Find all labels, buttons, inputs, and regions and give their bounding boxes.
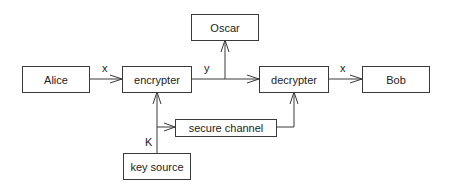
secure-channel-node: secure channel bbox=[175, 119, 277, 137]
secure-channel-label: secure channel bbox=[189, 122, 264, 134]
crypto-channel-diagram: Alice encrypter Oscar decrypter Bob secu… bbox=[0, 0, 454, 191]
bob-label: Bob bbox=[386, 74, 406, 86]
decrypter-node: decrypter bbox=[259, 66, 329, 93]
oscar-node: Oscar bbox=[191, 14, 259, 41]
bob-node: Bob bbox=[362, 66, 430, 93]
alice-label: Alice bbox=[44, 74, 68, 86]
key-source-label: key source bbox=[130, 161, 183, 173]
alice-node: Alice bbox=[22, 66, 90, 93]
oscar-label: Oscar bbox=[210, 22, 239, 34]
key-source-node: key source bbox=[123, 153, 191, 180]
encrypter-label: encrypter bbox=[134, 74, 180, 86]
edge-label-plaintext-out: x bbox=[340, 63, 346, 74]
decrypter-label: decrypter bbox=[271, 74, 317, 86]
edge-label-ciphertext: y bbox=[204, 63, 210, 74]
edge-label-key: K bbox=[145, 137, 152, 148]
encrypter-node: encrypter bbox=[122, 66, 192, 93]
edge-label-plaintext-in: x bbox=[102, 63, 108, 74]
